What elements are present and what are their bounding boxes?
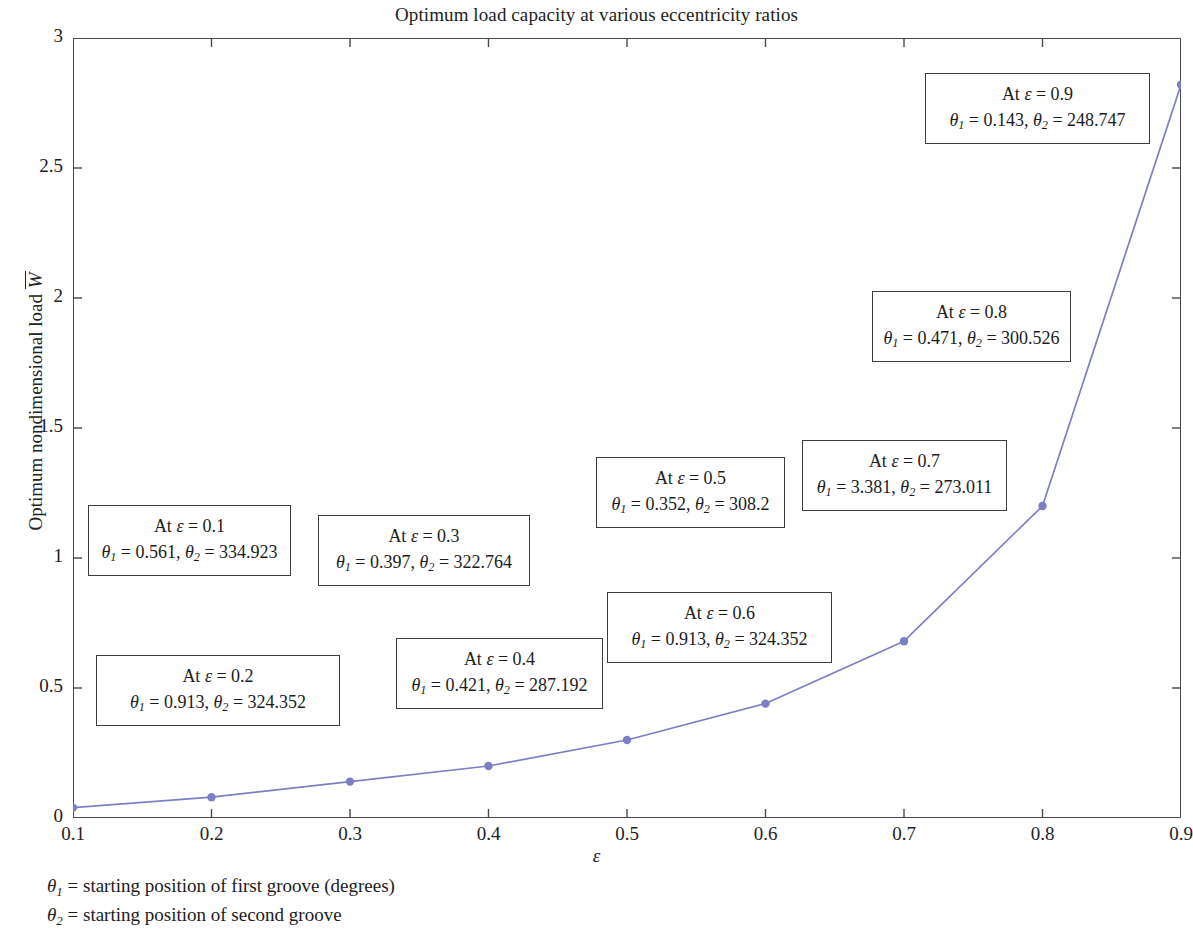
annotation-box-eps-0-1: At ε = 0.1θ1 = 0.561, θ2 = 334.923 (88, 505, 291, 576)
y-axis-title-symbol: W (25, 272, 46, 290)
data-point (761, 699, 769, 707)
annotation-box-eps-0-7: At ε = 0.7θ1 = 3.381, θ2 = 273.011 (802, 440, 1007, 511)
annotation-theta-values: θ1 = 0.352, θ2 = 308.2 (607, 491, 774, 519)
x-tick-label: 0.2 (172, 823, 252, 845)
footnote-line: θ1 = starting position of first groove (… (47, 872, 395, 901)
annotation-box-eps-0-3: At ε = 0.3θ1 = 0.397, θ2 = 322.764 (318, 515, 530, 586)
x-tick-label: 0.6 (726, 823, 806, 845)
annotation-theta-values: θ1 = 0.913, θ2 = 324.352 (618, 626, 821, 654)
x-tick-label: 0.5 (587, 823, 667, 845)
annotation-box-eps-0-5: At ε = 0.5θ1 = 0.352, θ2 = 308.2 (596, 457, 785, 528)
y-axis-title: Optimum nondimensional load W (25, 101, 47, 701)
annotation-box-eps-0-2: At ε = 0.2θ1 = 0.913, θ2 = 324.352 (96, 655, 340, 726)
x-tick-label: 0.9 (1141, 823, 1193, 845)
y-axis-title-text: Optimum nondimensional load (25, 294, 46, 530)
data-point (484, 762, 492, 770)
annotation-theta-values: θ1 = 0.397, θ2 = 322.764 (329, 549, 519, 577)
y-tick-label: 3 (3, 25, 63, 47)
annotation-box-eps-0-9: At ε = 0.9θ1 = 0.143, θ2 = 248.747 (925, 73, 1150, 144)
x-tick-label: 0.4 (449, 823, 529, 845)
annotation-theta-values: θ1 = 0.561, θ2 = 334.923 (99, 539, 280, 567)
annotation-box-eps-0-6: At ε = 0.6θ1 = 0.913, θ2 = 324.352 (607, 592, 832, 663)
data-point (1038, 502, 1046, 510)
annotation-eps-label: At ε = 0.1 (99, 513, 280, 539)
data-point (1177, 81, 1181, 89)
annotation-eps-label: At ε = 0.7 (813, 448, 996, 474)
annotation-eps-label: At ε = 0.4 (407, 646, 592, 672)
annotation-eps-label: At ε = 0.9 (936, 81, 1139, 107)
annotation-eps-label: At ε = 0.8 (883, 299, 1060, 325)
annotation-theta-values: θ1 = 0.471, θ2 = 300.526 (883, 325, 1060, 353)
x-tick-label: 0.1 (33, 823, 113, 845)
x-axis-title: ε (0, 845, 1193, 867)
annotation-box-eps-0-8: At ε = 0.8θ1 = 0.471, θ2 = 300.526 (872, 291, 1071, 362)
data-point (73, 803, 77, 811)
data-point (900, 637, 908, 645)
footnotes: θ1 = starting position of first groove (… (47, 872, 395, 930)
annotation-eps-label: At ε = 0.5 (607, 465, 774, 491)
footnote-line: θ2 = starting position of second groove (47, 901, 395, 930)
annotation-eps-label: At ε = 0.6 (618, 600, 821, 626)
annotation-theta-values: θ1 = 3.381, θ2 = 273.011 (813, 474, 996, 502)
annotation-theta-values: θ1 = 0.421, θ2 = 287.192 (407, 672, 592, 700)
x-tick-label: 0.8 (1003, 823, 1083, 845)
data-point (346, 777, 354, 785)
annotation-box-eps-0-4: At ε = 0.4θ1 = 0.421, θ2 = 287.192 (396, 638, 603, 709)
annotation-eps-label: At ε = 0.2 (107, 663, 329, 689)
annotation-theta-values: θ1 = 0.143, θ2 = 248.747 (936, 107, 1139, 135)
x-tick-label: 0.7 (864, 823, 944, 845)
page-title: Optimum load capacity at various eccentr… (0, 4, 1193, 26)
annotation-theta-values: θ1 = 0.913, θ2 = 324.352 (107, 689, 329, 717)
x-tick-label: 0.3 (310, 823, 390, 845)
data-point (207, 793, 215, 801)
data-point (623, 736, 631, 744)
annotation-eps-label: At ε = 0.3 (329, 523, 519, 549)
